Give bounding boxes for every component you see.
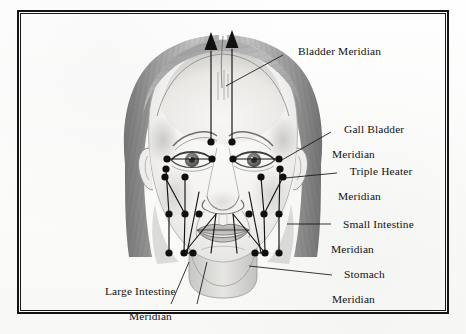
meridian-chart-page: Bladder Meridian Gall Bladder Meridian T… bbox=[0, 0, 466, 334]
label-triple-heater-line2: Meridian bbox=[338, 190, 412, 203]
label-large-intestine-line2: Meridian bbox=[93, 310, 176, 323]
label-bladder-meridian: Bladder Meridian bbox=[286, 32, 381, 70]
label-small-intestine-line2: Meridian bbox=[331, 243, 414, 256]
leader-stomach bbox=[249, 266, 332, 275]
label-bladder-line1: Bladder Meridian bbox=[298, 45, 381, 57]
label-stomach-meridian: Stomach Meridian bbox=[332, 255, 385, 331]
label-stomach-line2: Meridian bbox=[332, 293, 385, 306]
acupoint-brow-lower-left bbox=[208, 155, 215, 162]
nose-shade bbox=[206, 190, 240, 214]
label-small-intestine-line1: Small Intestine bbox=[343, 218, 414, 230]
acupoint-nose-side-right bbox=[245, 210, 252, 217]
acupoint-brow-right bbox=[228, 138, 235, 145]
acupoint-nose-side-left bbox=[195, 210, 202, 217]
cheek-shade-left bbox=[155, 168, 195, 220]
acupoint-temple-left bbox=[163, 155, 170, 162]
acupoint-brow-left bbox=[207, 138, 214, 145]
label-gall-bladder-line1: Gall Bladder bbox=[344, 123, 404, 135]
label-triple-heater-line1: Triple Heater bbox=[350, 165, 413, 177]
acupoint-temple-right bbox=[275, 155, 282, 162]
acupoint-brow-lower-right bbox=[229, 155, 236, 162]
acupoint-jaw-upper-left bbox=[161, 173, 168, 180]
label-large-intestine-meridian: Large Intestine Meridian bbox=[93, 272, 176, 334]
acupoint-jaw-upper-right bbox=[279, 173, 286, 180]
label-stomach-line1: Stomach bbox=[344, 268, 385, 280]
label-large-intestine-line1: Large Intestine bbox=[105, 285, 176, 297]
